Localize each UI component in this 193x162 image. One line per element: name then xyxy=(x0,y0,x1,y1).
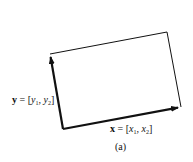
x-equals: = [ xyxy=(115,123,129,134)
y-vector-label: y = [y1, y2] xyxy=(12,94,54,109)
y-close-bracket: ] xyxy=(51,94,54,105)
x-vector-label: x = [x1, x2] xyxy=(110,123,152,138)
parallelogram-figure xyxy=(0,0,193,162)
right-edge xyxy=(167,32,181,107)
x-close-bracket: ] xyxy=(149,123,152,134)
diagram-canvas: y = [y1, y2] x = [x1, x2] (a) xyxy=(0,0,193,162)
top-edge xyxy=(50,32,167,54)
y-equals: = [ xyxy=(17,94,31,105)
figure-caption: (a) xyxy=(115,141,126,153)
y-vector-arrow xyxy=(51,57,63,129)
